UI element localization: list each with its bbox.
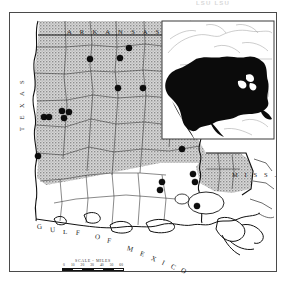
inset-map-container [162,21,274,143]
gulf-label-char: G [36,223,42,232]
scale-tick-label: 10 [71,263,75,268]
gulf-label-char: U [50,226,56,234]
scale-bar: SCALE - MILES 0102030405060 [62,258,124,271]
distribution-dot [140,85,146,91]
scale-tick-label: 20 [81,263,85,268]
distribution-dot [194,203,200,209]
map-frame: A R K A N S A S T E X A S M I S S . GULF… [9,12,277,272]
distribution-dot [126,45,132,51]
distribution-dot [87,56,93,62]
scale-tick-label: 30 [90,263,94,268]
distribution-dot [59,108,65,114]
distribution-dot [35,153,41,159]
distribution-dot [61,115,67,121]
distribution-dot [115,85,121,91]
running-head-text: LSU LSU [196,0,290,7]
distribution-dot [190,171,196,177]
distribution-dot [159,179,165,185]
scale-tick-label: 40 [100,263,104,268]
distribution-dot [157,187,163,193]
distribution-dot [66,109,72,115]
scale-tick-label: 0 [63,263,65,268]
figure-page: LSU LSU [0,0,293,286]
distribution-dot [117,55,123,61]
scale-tick-label: 60 [119,263,123,268]
distribution-dot [46,114,52,120]
scale-bar-segments [62,268,124,271]
scale-tick-label: 50 [110,263,114,268]
gulf-label-char: L [63,228,67,236]
gulf-label-char: F [76,229,80,237]
distribution-dot [192,179,198,185]
distribution-dot [179,146,185,152]
